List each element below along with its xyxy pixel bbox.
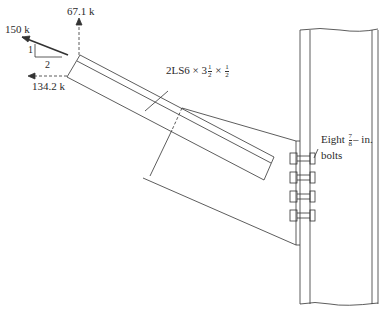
bolt-group [290, 153, 315, 221]
member-frac-1: 12 [208, 64, 212, 79]
bolt-1 [290, 153, 315, 164]
bolt-2 [290, 172, 315, 183]
slope-rise: 1 [28, 44, 33, 55]
member-label-sep: × [213, 64, 225, 76]
force-label-horizontal: 134.2 k [32, 81, 65, 92]
bolt-3 [290, 191, 315, 202]
member-label-prefix: 2LS6 × 3 [166, 64, 207, 76]
bolt-label-prefix: Eight [321, 133, 345, 145]
column [300, 29, 378, 306]
bolt-frac: 78 [349, 133, 353, 148]
gusset-plate [143, 108, 300, 245]
force-label-resultant: 150 k [5, 24, 30, 35]
bolt-label: Eight 78– in. [321, 133, 373, 148]
bolt-4 [290, 210, 315, 221]
bolt-label-line2: bolts [321, 150, 342, 161]
member-label: 2LS6 × 312 × 12 [166, 64, 230, 79]
member-frac-2: 12 [225, 64, 229, 79]
bolt-label-suffix: – in. [353, 133, 373, 145]
slope-run: 2 [45, 59, 50, 70]
member-label-leader [145, 91, 168, 111]
force-label-vertical: 67.1 k [67, 6, 95, 17]
